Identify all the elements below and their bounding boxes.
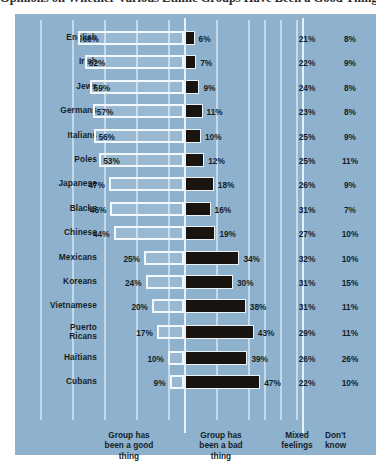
- bar-bad-thing: [185, 55, 196, 69]
- table-row: Germans57%11%23%8%: [15, 101, 376, 125]
- value-bad-thing: 12%: [208, 156, 225, 166]
- value-dont-know: 11%: [327, 156, 373, 166]
- value-good-thing: 53%: [103, 156, 131, 166]
- row-label-haitians: Haitians: [15, 353, 97, 363]
- legend-dk-line2: know: [325, 440, 346, 450]
- bar-good-thing: [110, 202, 184, 216]
- value-dont-know: 7%: [327, 205, 373, 215]
- bar-bad-thing: [185, 177, 214, 191]
- table-row: Poles53%12%25%11%: [15, 150, 376, 174]
- value-dont-know: 10%: [327, 254, 373, 264]
- table-row: Cubans9%47%22%10%: [15, 372, 376, 396]
- table-row: English66%6%21%8%: [15, 28, 376, 52]
- value-good-thing: 17%: [125, 328, 153, 338]
- value-bad-thing: 19%: [219, 229, 236, 239]
- value-dont-know: 11%: [327, 328, 373, 338]
- row-label-koreans: Koreans: [15, 277, 97, 287]
- value-dont-know: 11%: [327, 302, 373, 312]
- bar-bad-thing: [185, 202, 211, 216]
- bar-bad-thing: [185, 153, 204, 167]
- legend-bad-line3: thing: [211, 451, 231, 461]
- value-good-thing: 24%: [114, 278, 142, 288]
- bar-good-thing: [168, 351, 184, 365]
- bar-bad-thing: [185, 275, 233, 289]
- value-bad-thing: 16%: [215, 205, 232, 215]
- bar-good-thing: [152, 299, 184, 313]
- bar-good-thing: [157, 325, 184, 339]
- bar-bad-thing: [185, 226, 215, 240]
- value-bad-thing: 6%: [199, 34, 211, 44]
- value-good-thing: 10%: [136, 354, 164, 364]
- table-row: PuertoRicans17%43%29%11%: [15, 321, 376, 348]
- value-bad-thing: 30%: [237, 278, 254, 288]
- bar-bad-thing: [185, 251, 239, 265]
- value-dont-know: 8%: [327, 34, 373, 44]
- bar-bad-thing: [185, 325, 254, 339]
- bar-good-thing: [114, 226, 184, 240]
- legend-mixed-line2: feelings: [281, 440, 312, 450]
- bar-bad-thing: [185, 129, 201, 143]
- value-good-thing: 56%: [98, 132, 126, 142]
- value-good-thing: 25%: [112, 254, 140, 264]
- value-good-thing: 59%: [94, 83, 122, 93]
- value-good-thing: 47%: [77, 180, 105, 190]
- value-bad-thing: 39%: [251, 354, 268, 364]
- value-bad-thing: 18%: [218, 180, 235, 190]
- row-label-germans: Germans: [15, 106, 97, 116]
- table-row: Jews59%9%24%8%: [15, 77, 376, 101]
- value-dont-know: 26%: [327, 354, 373, 364]
- row-label-mexicans: Mexicans: [15, 253, 97, 263]
- legend-mixed: Mixed feelings: [269, 430, 325, 451]
- value-dont-know: 9%: [327, 180, 373, 190]
- value-good-thing: 57%: [97, 107, 125, 117]
- legend-bad: Group has been a bad thing: [179, 430, 263, 461]
- value-dont-know: 10%: [327, 378, 373, 388]
- bar-good-thing: [144, 251, 184, 265]
- bar-bad-thing: [185, 31, 195, 45]
- value-good-thing: 44%: [82, 229, 110, 239]
- legend-bad-line1: Group has: [200, 430, 242, 440]
- bar-good-thing: [146, 275, 184, 289]
- value-dont-know: 15%: [327, 278, 373, 288]
- row-label-cubans: Cubans: [15, 377, 97, 387]
- value-bad-thing: 9%: [203, 83, 215, 93]
- table-row: Haitians10%39%26%26%: [15, 348, 376, 372]
- legend-good-line2: been a good: [105, 440, 154, 450]
- value-good-thing: 62%: [89, 58, 117, 68]
- value-dont-know: 9%: [327, 58, 373, 68]
- bar-good-thing: [109, 177, 184, 191]
- value-dont-know: 8%: [327, 83, 373, 93]
- value-bad-thing: 7%: [200, 58, 212, 68]
- legend-good-line1: Group has: [108, 430, 150, 440]
- row-label-line1: Puerto: [70, 322, 97, 332]
- legend-good: Group has been a good thing: [87, 430, 171, 461]
- legend-bad-line2: been a bad: [199, 440, 242, 450]
- legend-dk-line1: Don't: [325, 430, 346, 440]
- row-label-poles: Poles: [15, 155, 97, 165]
- value-good-thing: 9%: [138, 378, 166, 388]
- chart-panel: English66%6%21%8%Irish62%7%22%9%Jews59%9…: [15, 14, 376, 455]
- chart-title-strip: Opinions on Whether Various Ethnic Group…: [0, 0, 376, 14]
- value-dont-know: 8%: [327, 107, 373, 117]
- value-bad-thing: 34%: [243, 254, 260, 264]
- table-row: Vietnamese20%38%31%11%: [15, 296, 376, 320]
- table-row: Italians56%10%25%9%: [15, 126, 376, 150]
- chart-legend: Group has been a good thing Group has be…: [15, 418, 376, 463]
- bar-bad-thing: [185, 351, 247, 365]
- bar-bad-thing: [185, 104, 203, 118]
- bar-bad-thing: [185, 375, 260, 389]
- row-label-puerto-ricans: PuertoRicans: [15, 323, 97, 342]
- table-row: Japanese47%18%26%9%: [15, 174, 376, 198]
- bar-good-thing: [170, 375, 184, 389]
- bar-bad-thing: [185, 80, 199, 94]
- row-label-vietnamese: Vietnamese: [15, 301, 97, 311]
- value-bad-thing: 11%: [207, 107, 223, 117]
- table-row: Irish62%7%22%9%: [15, 52, 376, 76]
- value-good-thing: 46%: [78, 205, 106, 215]
- legend-dont-know: Don't know: [325, 430, 373, 451]
- legend-mixed-line1: Mixed: [285, 430, 309, 440]
- row-label-line2: Ricans: [69, 331, 97, 341]
- row-label-italians: Italians: [15, 131, 97, 141]
- value-good-thing: 66%: [82, 34, 110, 44]
- value-good-thing: 20%: [120, 302, 148, 312]
